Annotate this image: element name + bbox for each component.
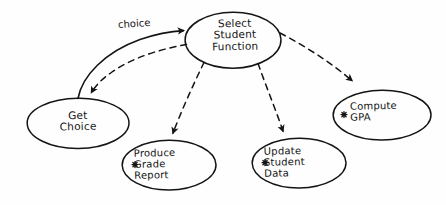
edge-select-to-produce[interactable]	[173, 63, 204, 134]
diagram-canvas: Select Student Function Get Choice Produ…	[0, 0, 446, 205]
asterisk-marker-gpa	[341, 112, 347, 118]
edge-select-to-update[interactable]	[258, 64, 283, 132]
node-get-choice[interactable]	[27, 98, 129, 148]
edge-select-to-get[interactable]	[92, 45, 187, 93]
node-select-student-function[interactable]	[185, 12, 281, 68]
sketch-layer	[0, 0, 446, 205]
node-compute-gpa[interactable]	[333, 90, 431, 140]
asterisk-marker-produce	[132, 162, 138, 168]
asterisk-marker-update	[262, 160, 268, 166]
edge-select-to-gpa[interactable]	[280, 33, 352, 81]
